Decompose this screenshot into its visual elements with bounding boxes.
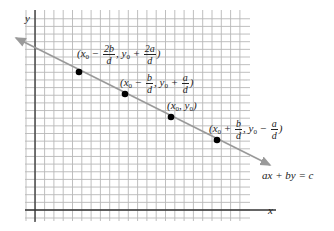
coordinate-plane	[0, 0, 334, 231]
point-1	[76, 69, 83, 76]
point-3	[168, 114, 175, 121]
point-3-label: (x0, y0)	[167, 100, 197, 113]
x-axis-label: x	[268, 205, 273, 216]
line-equation-label: ax + by = c	[262, 170, 314, 181]
point-2-label: (x0 − bd, y0 + ad)	[120, 72, 193, 95]
point-4-label: (x0 + bd, y0 − ad)	[209, 118, 282, 141]
point-1-label: (x0 − 2bd, y0 + 2ad)	[77, 43, 160, 66]
y-axis-label: y	[25, 13, 30, 24]
grid-lines	[25, 10, 250, 221]
